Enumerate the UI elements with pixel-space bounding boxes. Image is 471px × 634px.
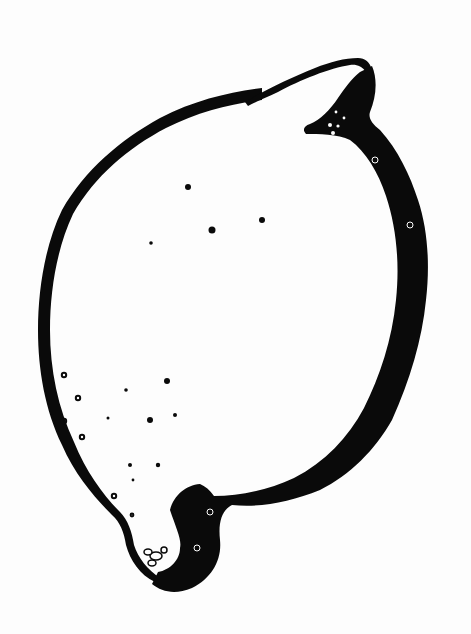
blossom-end-mark: [144, 547, 167, 566]
lemon-shadow-band: [152, 66, 428, 592]
lemon-woodcut-artwork: [0, 0, 471, 634]
surface-specks: [107, 184, 266, 481]
lemon-illustration: [0, 0, 471, 634]
lemon-outline-left: [38, 88, 262, 582]
